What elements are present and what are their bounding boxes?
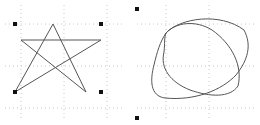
left-selection-handles	[13, 22, 103, 94]
handle-bottom-left[interactable]	[13, 90, 17, 94]
handle-bottom[interactable]	[135, 116, 139, 120]
handle-bottom-right[interactable]	[99, 90, 103, 94]
handle-top-right[interactable]	[99, 22, 103, 26]
ellipse-tilted-b	[163, 24, 239, 96]
star-shape[interactable]	[15, 24, 101, 92]
ellipse-tilted-a	[152, 19, 248, 99]
drawing-canvas[interactable]	[0, 0, 260, 125]
handle-top-left[interactable]	[13, 22, 17, 26]
handle-top[interactable]	[135, 7, 139, 11]
ellipse-shapes[interactable]	[152, 19, 248, 99]
